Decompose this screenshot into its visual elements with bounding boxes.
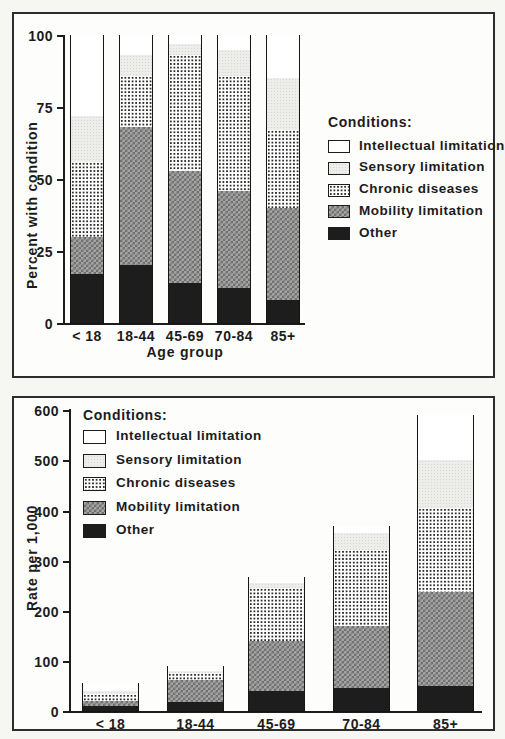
bar-segment-18-intellectual-limitation [83, 683, 138, 691]
y-axis-line [69, 409, 71, 713]
bar-segment-18-44-sensory-limitation [120, 54, 152, 75]
legend-label-sensory-limitation: Sensory limitation [116, 452, 242, 467]
bar-segment-18-chronic-diseases [83, 693, 138, 702]
legend-label-intellectual-limitation: Intellectual limitation [359, 138, 505, 153]
legend-swatch-intellectual-limitation-icon [328, 140, 350, 153]
legend-label-mobility-limitation: Mobility limitation [359, 203, 483, 218]
bar-45-69 [248, 577, 305, 712]
bar-18-44 [167, 666, 224, 712]
legend-swatch-sensory-limitation-icon [83, 454, 106, 468]
legend-swatch-other-icon [328, 227, 350, 240]
y-tick-label: 300 [19, 554, 59, 570]
legend-swatch-other-icon [83, 524, 106, 538]
y-tick [57, 179, 63, 181]
bar-segment-70-84-other [218, 287, 250, 323]
x-category-label: < 18 [79, 716, 143, 732]
y-tick-label: 0 [13, 316, 53, 332]
bar-segment-45-69-intellectual-limitation [169, 35, 201, 44]
bar-18 [82, 683, 139, 712]
rate-per-1000-chart-panel: Rate per 1,000 0100200300400500600< 1818… [12, 396, 495, 731]
bar-segment-85-chronic-diseases [418, 507, 473, 592]
bar-segment-45-69-mobility-limitation [169, 170, 201, 283]
y-tick-label: 0 [19, 704, 59, 720]
y-tick-label: 400 [19, 504, 59, 520]
bar-segment-85-sensory-limitation [418, 459, 473, 508]
y-tick-label: 100 [19, 654, 59, 670]
bar-segment-70-84-mobility-limitation [218, 190, 250, 289]
y-tick [57, 323, 63, 325]
legend-swatch-chronic-diseases-icon [83, 477, 106, 491]
legend-label-sensory-limitation: Sensory limitation [359, 159, 485, 174]
bar-segment-18-44-intellectual-limitation [168, 666, 223, 671]
bar-segment-45-69-mobility-limitation [249, 640, 304, 691]
bar-segment-85-other [267, 299, 299, 323]
bar-segment-85-chronic-diseases [267, 129, 299, 208]
bar-segment-45-69-intellectual-limitation [249, 577, 304, 583]
bar-segment-18-sensory-limitation [71, 115, 103, 162]
legend-label-mobility-limitation: Mobility limitation [116, 499, 240, 514]
x-category-label: 45-69 [245, 716, 309, 732]
y-tick-label: 200 [19, 604, 59, 620]
y-tick [63, 711, 69, 713]
legend-label-intellectual-limitation: Intellectual limitation [116, 428, 262, 443]
y-tick [63, 410, 69, 412]
legend-swatch-intellectual-limitation-icon [83, 430, 106, 444]
bar-segment-18-44-mobility-limitation [120, 126, 152, 265]
bar-segment-70-84-other [334, 687, 389, 711]
bar-segment-18-mobility-limitation [71, 236, 103, 274]
bar-85 [266, 35, 300, 324]
bar-70-84 [217, 35, 251, 324]
legend-swatch-chronic-diseases-icon [328, 184, 350, 197]
bar-segment-18-44-other [120, 264, 152, 323]
x-axis-title-age-group: Age group [125, 344, 245, 360]
legend-title: Conditions: [83, 407, 167, 423]
y-tick [63, 460, 69, 462]
bar-segment-85-intellectual-limitation [418, 415, 473, 460]
figure-page: Percent with condition Age group 0255075… [0, 0, 505, 739]
bar-segment-18-44-chronic-diseases [120, 75, 152, 128]
bar-segment-45-69-other [249, 690, 304, 711]
bar-segment-18-44-mobility-limitation [168, 679, 223, 702]
y-tick [63, 511, 69, 513]
y-tick [63, 611, 69, 613]
bar-segment-85-sensory-limitation [267, 77, 299, 130]
bar-segment-85-mobility-limitation [418, 591, 473, 686]
bar-segment-70-84-intellectual-limitation [218, 35, 250, 49]
y-axis-title-percent: Percent with condition [24, 121, 40, 289]
y-tick [57, 35, 63, 37]
y-tick [63, 661, 69, 663]
percent-with-condition-chart-panel: Percent with condition Age group 0255075… [12, 12, 495, 378]
bar-segment-85-intellectual-limitation [267, 35, 299, 78]
y-tick-label: 75 [13, 100, 53, 116]
bar-segment-18-44-other [168, 701, 223, 711]
bar-85 [417, 415, 474, 712]
legend-label-chronic-diseases: Chronic diseases [359, 181, 479, 196]
y-tick-label: 25 [13, 244, 53, 260]
x-category-label: 85+ [251, 328, 315, 344]
bar-segment-70-84-intellectual-limitation [334, 526, 389, 534]
bar-segment-45-69-sensory-limitation [169, 43, 201, 56]
bar-segment-85-other [418, 685, 473, 711]
bar-segment-18-chronic-diseases [71, 161, 103, 237]
legend-label-chronic-diseases: Chronic diseases [116, 475, 236, 490]
bar-segment-45-69-chronic-diseases [249, 587, 304, 641]
y-tick [63, 561, 69, 563]
bar-segment-70-84-chronic-diseases [218, 75, 250, 191]
bar-segment-70-84-sensory-limitation [334, 532, 389, 550]
x-category-label: 85+ [414, 716, 478, 732]
x-category-label: 18-44 [164, 716, 228, 732]
y-tick [57, 107, 63, 109]
y-tick-label: 50 [13, 172, 53, 188]
legend-swatch-mobility-limitation-icon [83, 501, 106, 515]
y-tick [57, 251, 63, 253]
bar-segment-18-44-intellectual-limitation [120, 35, 152, 55]
bar-segment-45-69-other [169, 282, 201, 323]
legend-swatch-mobility-limitation-icon [328, 205, 350, 218]
y-axis-line [63, 35, 65, 325]
bar-segment-18-other [71, 273, 103, 323]
bar-segment-45-69-chronic-diseases [169, 54, 201, 170]
y-tick-label: 600 [19, 403, 59, 419]
bar-45-69 [168, 35, 202, 324]
bar-70-84 [333, 526, 390, 712]
bar-segment-18-intellectual-limitation [71, 35, 103, 116]
